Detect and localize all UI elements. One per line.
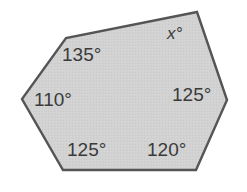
geometry-figure: 135° 110° x° 125° 125° 120° [0,0,247,192]
angle-label-right: 125° [172,85,211,104]
angle-label-bottom-right: 120° [147,140,186,159]
angle-label-top-left: 135° [62,45,101,64]
angle-label-left: 110° [34,90,72,109]
angle-label-bottom-left: 125° [67,140,106,159]
angle-label-unknown-x: x° [167,25,182,42]
